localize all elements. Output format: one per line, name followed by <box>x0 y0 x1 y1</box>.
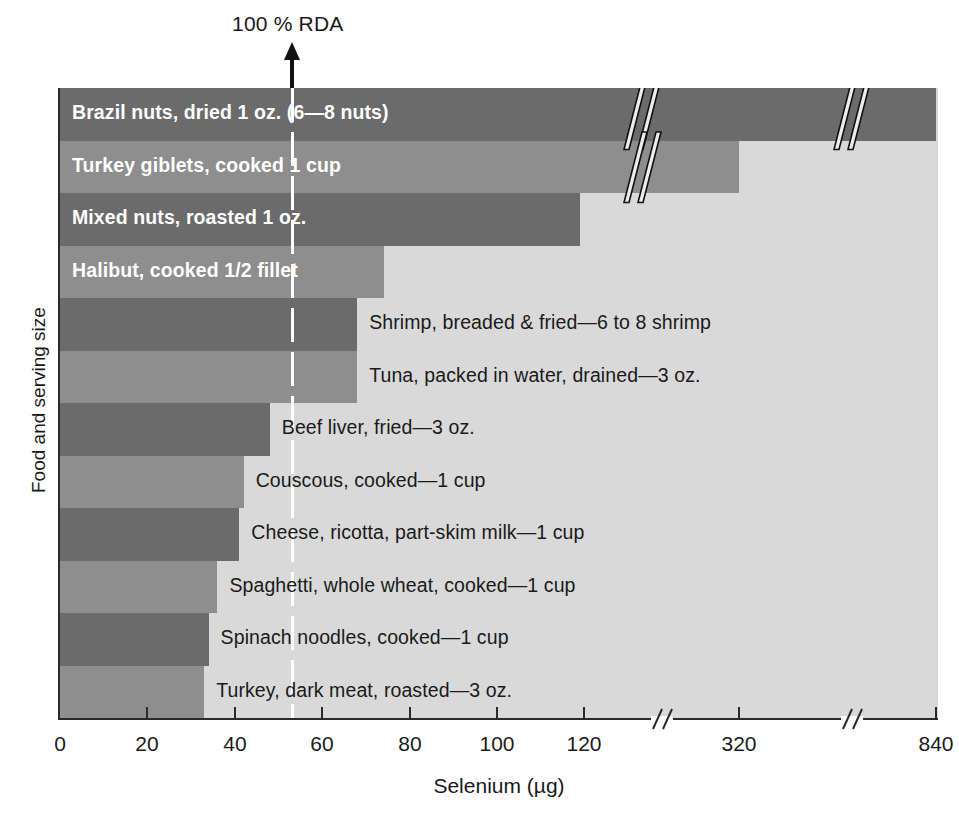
bar-row <box>60 456 244 509</box>
x-axis-tick-label: 80 <box>398 732 421 756</box>
rda-annotation-label: 100 % RDA <box>232 12 344 36</box>
x-axis-tick-label: 20 <box>135 732 158 756</box>
x-axis-tick-label: 840 <box>918 732 953 756</box>
x-axis-line <box>60 718 938 720</box>
bar-label: Turkey, dark meat, roasted—3 oz. <box>216 679 512 702</box>
bar-label: Couscous, cooked—1 cup <box>256 469 486 492</box>
bar-label: Shrimp, breaded & fried—6 to 8 shrimp <box>369 311 711 334</box>
x-axis-tick-label: 120 <box>566 732 601 756</box>
x-axis-tick-label: 40 <box>223 732 246 756</box>
x-axis-tick <box>583 707 585 718</box>
bar-row <box>60 613 209 666</box>
rda-reference-line <box>291 88 294 718</box>
bar-label: Mixed nuts, roasted 1 oz. <box>72 206 306 229</box>
bar-label: Beef liver, fried—3 oz. <box>282 416 475 439</box>
x-axis-tick-label: 0 <box>54 732 66 756</box>
bar-row <box>60 403 270 456</box>
plot-area <box>60 88 938 718</box>
bar-row <box>60 561 217 614</box>
x-axis-tick-label: 100 <box>479 732 514 756</box>
y-axis-line <box>58 88 60 720</box>
bar-label: Tuna, packed in water, drained—3 oz. <box>369 364 700 387</box>
bar-label: Spaghetti, whole wheat, cooked—1 cup <box>229 574 575 597</box>
bar-row <box>60 298 357 351</box>
x-axis-title: Selenium (µg) <box>433 774 564 798</box>
x-axis-tick <box>321 707 323 718</box>
bar-label: Halibut, cooked 1/2 fillet <box>72 259 298 282</box>
x-axis-tick <box>935 707 937 718</box>
axis-break-mark-icon <box>643 707 683 735</box>
x-axis-tick <box>738 707 740 718</box>
bar-row <box>60 351 357 404</box>
bar-row <box>60 508 239 561</box>
rda-arrow-icon <box>280 42 304 92</box>
x-axis-tick-label: 60 <box>310 732 333 756</box>
x-axis-tick <box>146 707 148 718</box>
bar-row <box>60 666 204 719</box>
x-axis-tick <box>496 707 498 718</box>
x-axis-tick <box>409 707 411 718</box>
x-axis-tick-label: 320 <box>721 732 756 756</box>
axis-break-mark-icon <box>833 707 873 735</box>
selenium-bar-chart: 100 % RDA Brazil nuts, dried 1 oz. (6—8 … <box>0 0 959 813</box>
bar-label: Brazil nuts, dried 1 oz. (6—8 nuts) <box>72 101 389 124</box>
bar-label: Cheese, ricotta, part-skim milk—1 cup <box>251 521 584 544</box>
bar-label: Turkey giblets, cooked 1 cup <box>72 154 341 177</box>
y-axis-title: Food and serving size <box>28 307 50 493</box>
x-axis-tick <box>234 707 236 718</box>
bar-label: Spinach noodles, cooked—1 cup <box>221 626 509 649</box>
